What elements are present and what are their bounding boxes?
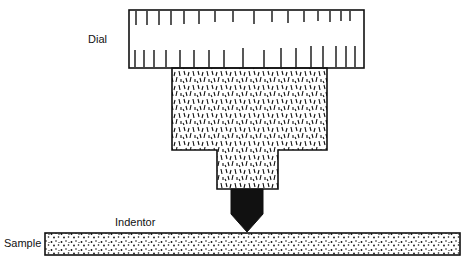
sample <box>45 233 460 255</box>
indentor-label: Indentor <box>115 216 155 228</box>
sample-label: Sample <box>4 237 41 249</box>
indenter-body <box>172 68 327 189</box>
dial-label: Dial <box>88 33 107 45</box>
diagram-canvas <box>0 0 471 267</box>
indentor-tip <box>231 189 263 232</box>
dial <box>129 10 364 68</box>
